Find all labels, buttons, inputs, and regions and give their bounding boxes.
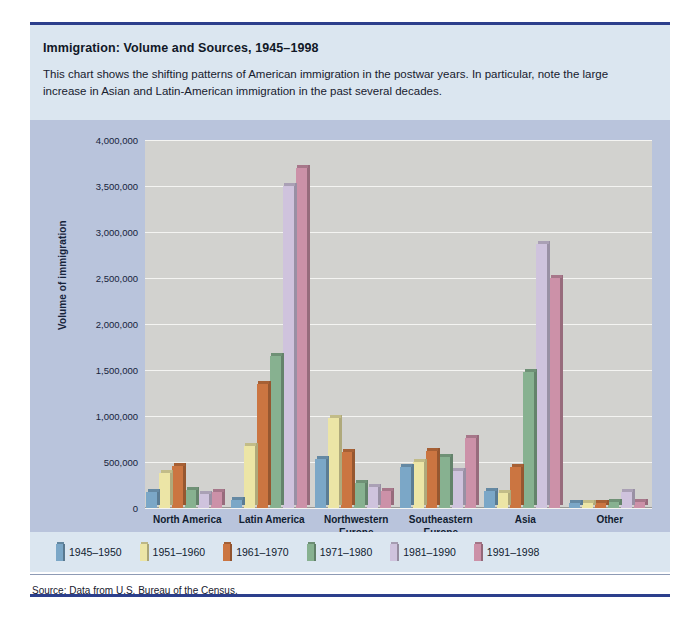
bar-face bbox=[354, 483, 365, 508]
legend-swatch bbox=[474, 542, 481, 561]
bar[interactable] bbox=[536, 244, 547, 508]
bar-side bbox=[365, 480, 368, 505]
bar[interactable] bbox=[283, 186, 294, 508]
bar[interactable] bbox=[400, 467, 411, 508]
bar-face bbox=[198, 494, 209, 508]
bar[interactable] bbox=[270, 356, 281, 508]
bar-face bbox=[146, 492, 157, 508]
bar-face bbox=[185, 490, 196, 508]
gridline: 0 bbox=[145, 508, 652, 509]
legend-band: 1945–19501951–19601961–19701971–19801981… bbox=[30, 532, 670, 572]
bar-face bbox=[400, 467, 411, 508]
bar[interactable] bbox=[341, 452, 352, 508]
bar[interactable] bbox=[172, 466, 183, 508]
bar[interactable] bbox=[510, 467, 521, 508]
bar[interactable] bbox=[549, 278, 560, 508]
bar[interactable] bbox=[569, 503, 580, 508]
legend-swatch-part bbox=[147, 544, 149, 561]
legend-swatch bbox=[223, 542, 230, 561]
bar[interactable] bbox=[315, 459, 326, 508]
bar[interactable] bbox=[257, 384, 268, 508]
bar-side bbox=[352, 449, 355, 505]
legend-item[interactable]: 1991–1998 bbox=[474, 542, 540, 561]
bar[interactable] bbox=[595, 503, 606, 508]
bar[interactable] bbox=[296, 168, 307, 508]
legend-swatch-part bbox=[140, 544, 147, 561]
bar-face bbox=[484, 491, 495, 508]
bar[interactable] bbox=[426, 451, 437, 508]
bar[interactable] bbox=[452, 471, 463, 508]
bar-face bbox=[172, 466, 183, 508]
bar[interactable] bbox=[380, 491, 391, 508]
x-axis-group-label: Latin America bbox=[230, 514, 315, 527]
bar-face bbox=[569, 503, 580, 508]
legend: 1945–19501951–19601961–19701971–19801981… bbox=[56, 542, 539, 561]
y-axis-tick-label: 2,000,000 bbox=[96, 319, 138, 330]
legend-label: 1961–1970 bbox=[236, 546, 289, 558]
y-axis-tick-label: 0 bbox=[133, 503, 138, 514]
bar-face bbox=[283, 186, 294, 508]
header-band: Immigration: Volume and Sources, 1945–19… bbox=[30, 25, 670, 120]
bar-face bbox=[549, 278, 560, 508]
y-axis-tick-label: 3,500,000 bbox=[96, 181, 138, 192]
bar-side bbox=[547, 241, 550, 505]
plot-band: Volume of immigration 4,000,0003,500,000… bbox=[30, 120, 670, 532]
legend-swatch-part bbox=[397, 544, 399, 561]
bar-face bbox=[159, 473, 170, 508]
bar[interactable] bbox=[367, 487, 378, 508]
legend-item[interactable]: 1951–1960 bbox=[140, 542, 206, 561]
legend-swatch-part bbox=[230, 544, 232, 561]
bar[interactable] bbox=[608, 502, 619, 508]
bar[interactable] bbox=[211, 492, 222, 508]
bar-face bbox=[621, 492, 632, 508]
bar[interactable] bbox=[439, 457, 450, 508]
bar-side bbox=[170, 470, 173, 505]
bar[interactable] bbox=[159, 473, 170, 508]
bar[interactable] bbox=[198, 494, 209, 508]
bar[interactable] bbox=[146, 492, 157, 508]
x-axis-group-label: Other bbox=[568, 514, 653, 527]
bar-side bbox=[255, 443, 258, 505]
bar-face bbox=[536, 244, 547, 508]
x-axis-group-label: Asia bbox=[483, 514, 568, 527]
bar[interactable] bbox=[413, 462, 424, 508]
bar-face bbox=[608, 502, 619, 508]
legend-item[interactable]: 1945–1950 bbox=[56, 542, 122, 561]
legend-label: 1951–1960 bbox=[153, 546, 206, 558]
bar-face bbox=[315, 459, 326, 508]
bar[interactable] bbox=[185, 490, 196, 508]
bar-face bbox=[497, 493, 508, 508]
y-axis-tick-label: 4,000,000 bbox=[96, 135, 138, 146]
bar-group bbox=[400, 140, 482, 508]
bar[interactable] bbox=[244, 446, 255, 508]
bar-side bbox=[534, 369, 537, 505]
bar-side bbox=[281, 353, 284, 505]
bar[interactable] bbox=[484, 491, 495, 508]
legend-item[interactable]: 1981–1990 bbox=[390, 542, 456, 561]
bar[interactable] bbox=[621, 492, 632, 508]
bar[interactable] bbox=[582, 503, 593, 508]
bar[interactable] bbox=[634, 502, 645, 508]
bar[interactable] bbox=[328, 418, 339, 508]
y-axis-tick-label: 500,000 bbox=[104, 457, 138, 468]
figure-container: Immigration: Volume and Sources, 1945–19… bbox=[30, 22, 670, 602]
bar-face bbox=[523, 372, 534, 508]
bar-side bbox=[424, 459, 427, 505]
legend-swatch-part bbox=[474, 544, 481, 561]
bar[interactable] bbox=[497, 493, 508, 508]
bar[interactable] bbox=[523, 372, 534, 508]
x-axis-group-label: North America bbox=[145, 514, 230, 527]
legend-item[interactable]: 1971–1980 bbox=[307, 542, 373, 561]
source-divider-rule bbox=[30, 574, 670, 575]
page-title: Immigration: Volume and Sources, 1945–19… bbox=[43, 41, 319, 55]
bar[interactable] bbox=[231, 500, 242, 508]
bar-face bbox=[380, 491, 391, 508]
legend-swatch bbox=[140, 542, 147, 561]
legend-item[interactable]: 1961–1970 bbox=[223, 542, 289, 561]
bar[interactable] bbox=[354, 483, 365, 508]
legend-label: 1981–1990 bbox=[403, 546, 456, 558]
chart-description: This chart shows the shifting patterns o… bbox=[43, 66, 623, 100]
bar-face bbox=[328, 418, 339, 508]
bar-face bbox=[510, 467, 521, 508]
bar[interactable] bbox=[465, 438, 476, 508]
